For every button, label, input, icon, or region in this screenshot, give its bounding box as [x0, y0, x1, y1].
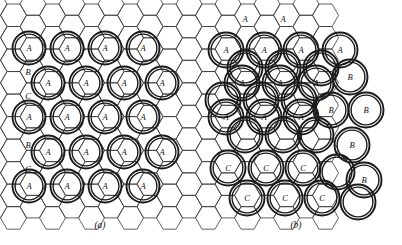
site-label: A	[101, 181, 108, 191]
edge-site-label: B	[25, 67, 30, 77]
lattice-hexagon	[0, 60, 7, 83]
lattice-hexagon	[1, 72, 27, 95]
lattice-hexagon	[0, 0, 7, 15]
lattice-hexagon	[1, 139, 27, 162]
site-label: A	[25, 43, 32, 53]
lattice-hexagon	[215, 0, 241, 15]
site-label: A	[238, 78, 245, 88]
lattice-hexagon	[293, 15, 319, 38]
site-label: A	[101, 112, 108, 122]
lattice-hexagon	[40, 207, 66, 230]
lattice-hexagon	[176, 105, 202, 128]
site-label: A	[101, 43, 108, 53]
site-label: A	[297, 112, 304, 122]
lattice-hexagon	[118, 207, 144, 230]
site-label: A	[25, 181, 32, 191]
lattice-hexagon	[196, 4, 222, 27]
lattice-hexagon	[118, 4, 144, 27]
lattice-site-circle-inner	[268, 120, 298, 150]
site-label: A	[336, 45, 343, 55]
site-label: C	[300, 163, 306, 173]
lattice-hexagon	[0, 105, 7, 128]
edge-site-label: C	[25, 91, 31, 101]
site-label: C	[319, 193, 325, 203]
lattice-site-circle	[341, 185, 376, 220]
panel-b-circles	[206, 33, 384, 220]
lattice-hexagon	[176, 83, 202, 106]
lattice-hexagon	[196, 184, 222, 207]
site-label: A	[222, 112, 229, 122]
lattice-hexagon	[137, 0, 163, 15]
site-label: B	[349, 140, 354, 150]
edge-site-label: A	[279, 14, 286, 24]
lattice-hexagon	[1, 207, 27, 230]
lattice-hexagon	[0, 173, 7, 196]
site-label: A	[63, 43, 70, 53]
site-label: C	[244, 193, 250, 203]
site-label: B	[361, 175, 366, 185]
lattice-hexagon	[0, 128, 7, 151]
lattice-hexagon	[157, 4, 183, 27]
lattice-hexagon	[157, 162, 183, 185]
lattice-hexagon	[79, 4, 105, 27]
site-label: B	[363, 105, 368, 115]
stacking-figure: AAAAAAAAAAAAAAAAAAAABCBC AAAAAAABAAABBBC…	[0, 0, 402, 245]
lattice-hexagon	[293, 0, 319, 15]
panel-caption-a: (a)	[94, 220, 105, 231]
site-label: A	[139, 112, 146, 122]
site-label: C	[225, 163, 231, 173]
lattice-hexagon	[98, 0, 124, 15]
lattice-hexagon	[0, 150, 7, 173]
site-label: A	[44, 78, 51, 88]
lattice-hexagon	[20, 105, 46, 128]
site-label: A	[222, 45, 229, 55]
site-label: A	[44, 147, 51, 157]
lattice-hexagon	[0, 195, 7, 218]
site-label: A	[158, 78, 165, 88]
site-label: A	[63, 181, 70, 191]
site-label: A	[120, 78, 127, 88]
lattice-hexagon	[157, 27, 183, 50]
lattice-hexagon	[40, 4, 66, 27]
lattice-hexagon	[254, 0, 280, 15]
site-label: C	[282, 193, 288, 203]
lattice-hexagon	[1, 4, 27, 27]
lattice-hexagon	[176, 15, 202, 38]
lattice-site-circle-inner	[306, 53, 336, 83]
site-label: C	[263, 163, 269, 173]
site-label: B	[328, 105, 333, 115]
lattice-site-circle-inner	[343, 187, 373, 217]
lattice-hexagon	[157, 207, 183, 230]
site-label: B	[347, 72, 352, 82]
panel-caption-b: (b)	[290, 220, 301, 231]
site-label: A	[312, 78, 319, 88]
lattice-site-circle-inner	[230, 120, 260, 150]
site-label: A	[297, 45, 304, 55]
lattice-hexagon	[176, 128, 202, 151]
lattice-hexagon	[40, 94, 66, 117]
lattice-hexagon	[196, 162, 222, 185]
lattice-hexagon	[196, 207, 222, 230]
site-label: A	[276, 78, 283, 88]
site-label: A	[120, 147, 127, 157]
lattice-hexagon	[176, 150, 202, 173]
lattice-site-circle	[228, 118, 263, 153]
lattice-hexagon	[274, 4, 300, 27]
lattice-hexagon	[0, 38, 7, 61]
lattice-hexagon	[176, 173, 202, 196]
lattice-hexagon	[0, 83, 7, 106]
site-label: A	[82, 78, 89, 88]
lattice-hexagon	[176, 195, 202, 218]
lattice-hexagon	[59, 0, 85, 15]
site-label: A	[139, 181, 146, 191]
lattice-hexagon	[176, 0, 202, 15]
site-label: A	[82, 147, 89, 157]
edge-site-label: A	[241, 14, 248, 24]
lattice-hexagon	[157, 184, 183, 207]
lattice-hexagon	[176, 38, 202, 61]
lattice-hexagon	[215, 195, 241, 218]
site-label: A	[260, 45, 267, 55]
edge-site-label: C	[25, 164, 31, 174]
edge-site-label: B	[25, 140, 30, 150]
lattice-hexagon	[176, 60, 202, 83]
